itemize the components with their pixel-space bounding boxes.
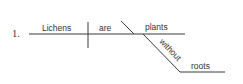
subject-word: Lichens	[42, 23, 71, 33]
verb-word: are	[99, 23, 112, 33]
preposition-word: without	[157, 36, 184, 63]
complement-divider	[121, 21, 134, 34]
object-word: roots	[191, 61, 210, 71]
sentence-diagram: 1. Lichens are plants without roots	[0, 0, 243, 84]
predicate-nominative-word: plants	[145, 22, 168, 32]
item-number: 1.	[12, 28, 20, 39]
